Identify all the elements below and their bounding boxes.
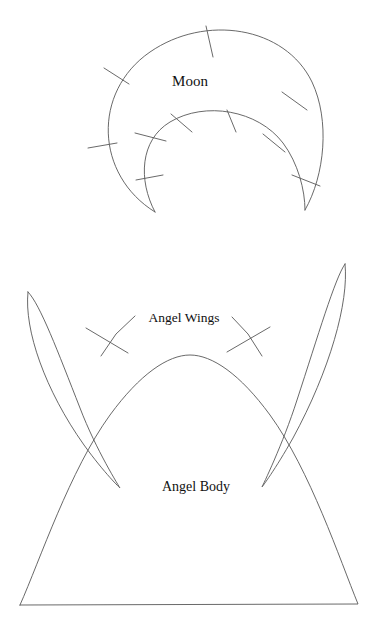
moon-outer-arc	[108, 30, 323, 212]
moon-label: Moon	[172, 73, 208, 89]
moon-notch-icon-8	[135, 133, 166, 141]
angel-body-label: Angel Body	[162, 479, 230, 494]
angel-wings-label: Angel Wings	[149, 310, 220, 325]
pattern-drawing-canvas: Moon Angel Wings Angel Body	[0, 0, 375, 632]
angel-wing-right-outline	[262, 264, 346, 487]
moon-notch-icon-2	[88, 143, 117, 148]
angel-wing-left-outline	[28, 292, 120, 488]
angel-wings-leader-right	[232, 317, 262, 356]
pattern-sheet: Moon Angel Wings Angel Body	[0, 0, 375, 632]
moon-inner-arc	[144, 111, 305, 212]
moon-notch-icon-9	[263, 134, 285, 152]
moon-notch-icon-10	[136, 175, 163, 180]
moon-notch-icon-5	[292, 175, 320, 186]
angel-wings-leader-left	[101, 316, 135, 356]
angel-wings-notch-icon-right	[227, 327, 270, 352]
moon-notch-icon-4	[282, 92, 307, 110]
moon-shape-group: Moon	[88, 26, 323, 212]
angel-shape-group: Angel Wings Angel Body	[20, 264, 358, 605]
angel-wings-notch-icon-left	[86, 328, 128, 353]
